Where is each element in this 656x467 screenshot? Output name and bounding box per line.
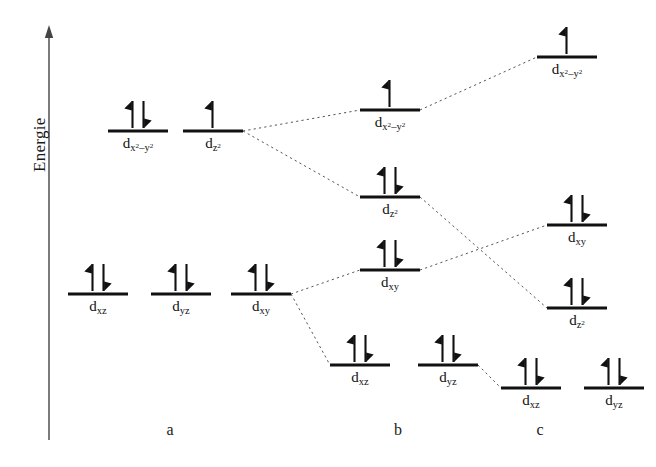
orbital-label-b-dxz: dxz [320,370,400,387]
connector-lines [243,57,547,388]
connector-b-dx2y2__c-dx2y2 [420,57,537,110]
orbital-label-a-dyz: dyz [141,299,221,316]
electron-down-barb-a-dxz [104,282,112,292]
electron-up-barb-a-dz2 [204,101,212,111]
orbital-label-b-dx2y2: dx2–y2 [350,115,430,132]
orbital-label-c-dz2: dz2 [537,313,617,330]
connector-b-dxy__c-dxy [420,225,547,270]
electron-up-barb-b-dxz [346,335,354,345]
electron-down-barb-c-dz2 [583,296,591,306]
column-label-c: c [520,421,560,439]
orbital-label-a-dxy: dxy [221,299,301,316]
energy-axis-arrowhead [45,25,53,38]
energy-axis [45,25,53,440]
electron-up-barb-b-dz2 [376,167,384,177]
column-label-b: b [378,421,418,439]
column-label-a: a [150,421,190,439]
electron-down-barb-b-dxy [396,258,404,268]
electron-down-barb-b-dyz [454,353,462,363]
energy-axis-label: Energie [30,117,50,172]
electron-up-barb-a-dyz [167,264,175,274]
orbital-label-c-dxz: dxz [491,393,571,410]
orbital-label-b-dz2: dz2 [350,202,430,219]
electron-up-barb-b-dx2y2 [381,80,389,90]
electron-down-barb-a-dx2y2 [144,119,152,129]
electron-up-barb-c-dxy [563,195,571,205]
connector-b-dz2__c-dz2 [420,197,547,308]
electron-up-barb-b-dyz [434,335,442,345]
electron-down-barb-b-dxz [366,353,374,363]
orbital-label-a-dx2y2: dx2–y2 [98,136,178,153]
electron-up-barb-a-dxz [84,264,92,274]
electron-down-barb-c-dxz [537,376,545,386]
electron-down-barb-c-dyz [620,376,628,386]
connector-a-dz2__b-dz2 [243,131,360,197]
orbital-label-b-dxy: dxy [350,275,430,292]
electron-up-barb-a-dxy [247,264,255,274]
electron-up-barb-c-dz2 [563,278,571,288]
electron-down-barb-b-dz2 [396,185,404,195]
electron-down-barb-a-dyz [187,282,195,292]
orbital-label-c-dx2y2: dx2–y2 [527,62,607,79]
orbital-label-c-dxy: dxy [537,230,617,247]
orbital-label-a-dz2: dz2 [173,136,253,153]
electron-up-barb-c-dyz [600,358,608,368]
electron-up-barb-a-dx2y2 [124,101,132,111]
orbital-label-a-dxz: dxz [58,299,138,316]
connector-a-dz2__b-dx2y2 [243,110,360,131]
orbital-label-c-dyz: dyz [574,393,654,410]
electron-up-barb-b-dxy [376,240,384,250]
electron-down-barb-a-dxy [267,282,275,292]
orbital-energy-diagram: Energie dx2–y2dz2dxzdyzdxydx2–y2dz2dxydx… [0,0,656,467]
electron-down-barb-c-dxy [583,213,591,223]
electron-up-barb-c-dx2y2 [558,27,566,37]
electron-up-barb-c-dxz [517,358,525,368]
orbital-label-b-dyz: dyz [408,370,488,387]
energy-levels [68,57,644,388]
